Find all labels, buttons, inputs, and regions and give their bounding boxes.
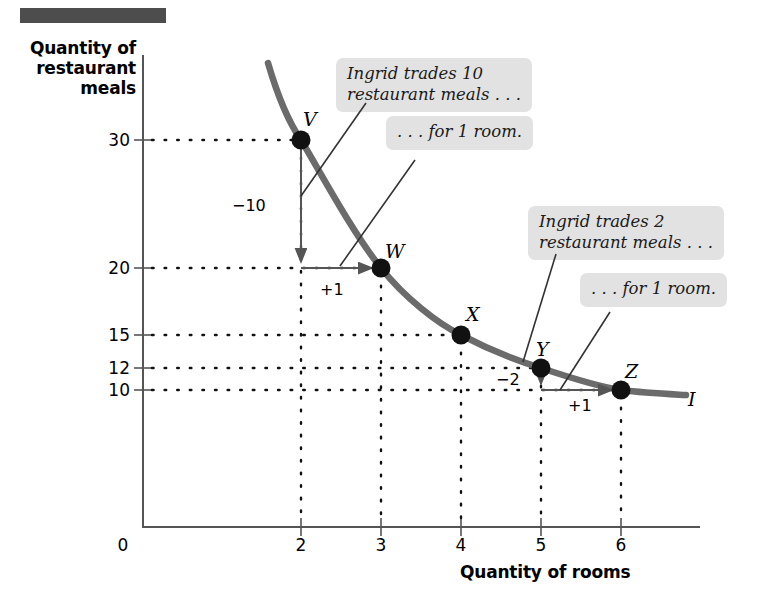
leader-line-callout-2 [523,254,556,362]
data-point-W[interactable] [372,259,391,278]
indifference-curve-figure: Quantity of restaurant meals Quantity of… [0,0,780,600]
data-point-Z[interactable] [612,381,631,400]
leader-line-callout-3 [560,312,610,390]
plot-area [0,0,780,600]
data-point-Y[interactable] [532,359,551,378]
data-point-V[interactable] [292,131,311,150]
indifference-curve [268,63,686,395]
leader-line-callout-1 [340,160,415,266]
data-point-X[interactable] [452,326,471,345]
leader-line-callout-0 [301,103,366,196]
